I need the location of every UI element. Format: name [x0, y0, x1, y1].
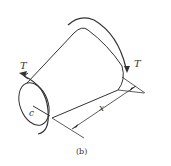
- length-label: x: [99, 103, 104, 113]
- arrowhead-left-icon: [19, 71, 27, 77]
- radius-label: c: [29, 108, 34, 118]
- extension-line-left: [52, 118, 84, 138]
- shaft-bottom-edge: [52, 90, 118, 118]
- extension-line-right: [118, 90, 144, 93]
- tapered-shaft-diagram: T T c x (b): [0, 0, 171, 166]
- figure-caption: (b): [76, 147, 87, 156]
- shaft-top-edge: [27, 33, 74, 83]
- torque-label-left: T: [20, 60, 28, 71]
- shaft-large-end: [74, 28, 123, 90]
- torque-label-right: T: [134, 58, 142, 69]
- torque-arrow-right: [68, 18, 126, 68]
- arrowhead-right-icon: [124, 66, 130, 73]
- dim-arrowhead-left-icon: [72, 124, 78, 129]
